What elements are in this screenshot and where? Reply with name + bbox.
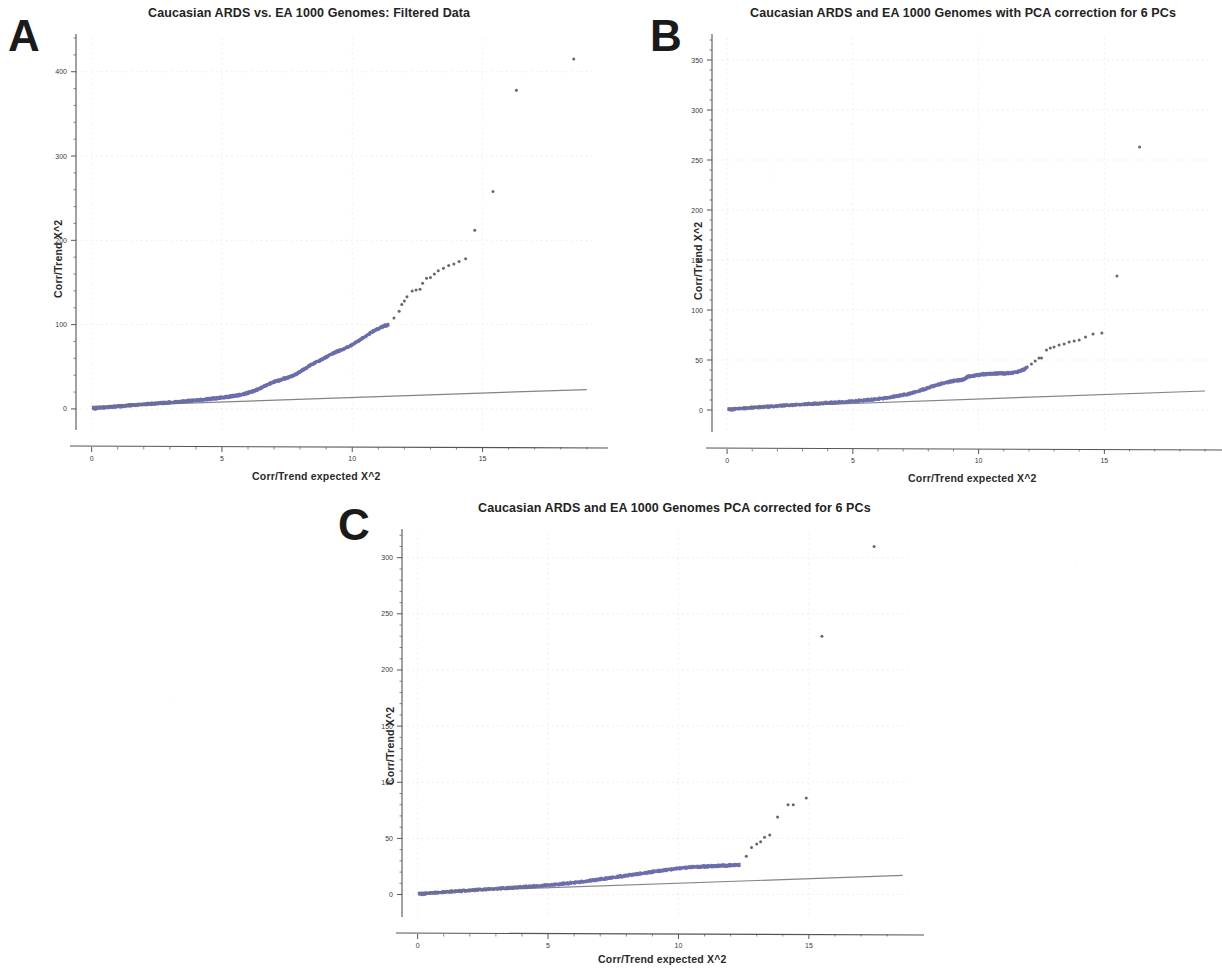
svg-text:0: 0 [699,407,703,414]
panel-c-xaxis-label: Corr/Trend expected X^2 [598,953,727,965]
panel-b-title: Caucasian ARDS and EA 1000 Genomes with … [750,6,1176,20]
axes [396,529,924,935]
x-ticks: 051015 [90,447,587,462]
panel-b-yaxis-label: Corr/Trend X^2 [692,222,704,300]
panel-a-title: Caucasian ARDS vs. EA 1000 Genomes: Filt… [148,6,470,20]
svg-text:100: 100 [691,307,703,314]
svg-text:15: 15 [805,942,813,949]
x-ticks: 051015 [416,934,887,949]
svg-text:0: 0 [63,405,67,412]
svg-text:350: 350 [691,57,703,64]
svg-text:300: 300 [691,107,703,114]
svg-text:250: 250 [691,157,703,164]
reference-line [727,391,1205,408]
panel-a-yaxis-label: Corr/Trend X^2 [52,220,64,298]
svg-text:300: 300 [55,153,67,160]
data-points-tail [745,545,876,858]
svg-text:5: 5 [851,457,855,464]
svg-text:400: 400 [55,68,67,75]
panel-c: C Caucasian ARDS and EA 1000 Genomes PCA… [330,495,950,975]
x-ticks: 051015 [725,449,1205,464]
data-points-dense [418,863,741,897]
svg-text:10: 10 [975,457,983,464]
reference-line [418,875,903,892]
svg-text:15: 15 [1100,457,1108,464]
data-points-tail [1030,146,1141,366]
panel-a-xaxis-label: Corr/Trend expected X^2 [252,470,381,482]
svg-text:10: 10 [675,942,683,949]
svg-text:0: 0 [725,457,729,464]
svg-text:10: 10 [348,455,356,462]
svg-text:5: 5 [546,942,550,949]
svg-text:15: 15 [479,455,487,462]
gridlines [712,38,1210,432]
svg-text:100: 100 [55,321,67,328]
data-points-dense [727,365,1028,412]
svg-text:250: 250 [381,610,393,617]
svg-text:50: 50 [695,357,703,364]
figure-qq-plots: A Caucasian ARDS vs. EA 1000 Genomes: Fi… [0,0,1222,975]
svg-text:300: 300 [381,554,393,561]
svg-text:5: 5 [220,455,224,462]
axes [70,34,608,448]
svg-text:0: 0 [90,455,94,462]
svg-text:0: 0 [416,942,420,949]
svg-text:50: 50 [385,835,393,842]
svg-text:200: 200 [691,207,703,214]
gridlines [76,38,592,430]
panel-b-xaxis-label: Corr/Trend expected X^2 [908,472,1037,484]
svg-text:200: 200 [381,666,393,673]
svg-text:0: 0 [389,891,393,898]
data-points-tail [392,58,575,320]
panel-a: A Caucasian ARDS vs. EA 1000 Genomes: Fi… [0,0,620,492]
panel-a-plot: 0100200300400051015 [0,22,620,462]
panel-b: B Caucasian ARDS and EA 1000 Genomes wit… [640,0,1222,492]
panel-b-plot: 050100150200250300350051015 [640,22,1222,462]
panel-c-title: Caucasian ARDS and EA 1000 Genomes PCA c… [478,501,871,515]
gridlines [402,533,908,917]
panel-c-plot: 050100150200250300051015 [330,517,950,947]
reference-line [92,390,587,407]
axes [706,34,1222,450]
panel-c-yaxis-label: Corr/Trend X^2 [384,707,396,785]
